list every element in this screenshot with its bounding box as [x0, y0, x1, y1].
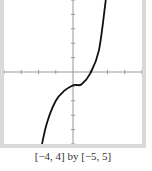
window-caption: [−4, 4] by [−5, 5] [0, 150, 146, 162]
plot-area [4, 0, 142, 144]
cubic-graph [4, 0, 142, 144]
plot-frame [0, 0, 146, 148]
